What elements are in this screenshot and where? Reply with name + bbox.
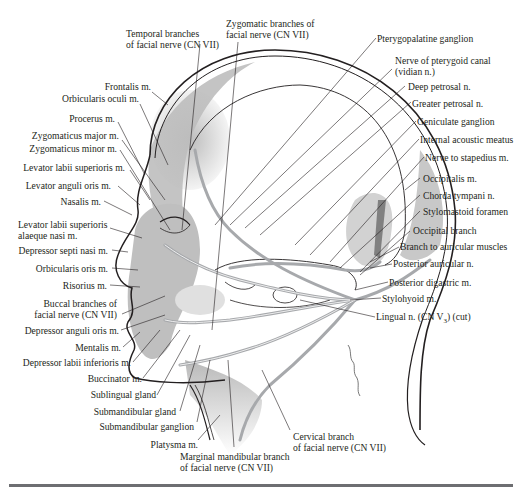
label-line: of facial nerve (CN VII) bbox=[180, 462, 290, 473]
label-line: of facial nerve (CN VII) bbox=[293, 442, 386, 453]
label-greater-petrosal: Greater petrosal n. bbox=[412, 98, 483, 109]
label-deep-petrosal: Deep petrosal n. bbox=[408, 81, 471, 92]
label-chorda-tympani: Chorda tympani n. bbox=[423, 190, 495, 201]
label-submandibular-gland: Submandibular gland bbox=[94, 406, 176, 417]
label-stylohyoid: Stylohyoid m. bbox=[382, 293, 436, 304]
label-internal-acoustic-meatus: Internal acoustic meatus bbox=[420, 134, 513, 145]
label-levator-anguli-oris: Levator anguli oris m. bbox=[26, 180, 111, 191]
label-geniculate-ganglion: Geniculate ganglion bbox=[417, 116, 495, 127]
label-line: Levator labii superioris bbox=[18, 219, 108, 230]
label-line: facial nerve (CN VII) bbox=[226, 29, 314, 40]
bottom-rule bbox=[9, 484, 513, 487]
label-text: ) (cut) bbox=[447, 311, 471, 322]
label-line: Cervical branch bbox=[293, 431, 386, 442]
label-sublingual-gland: Sublingual gland bbox=[91, 389, 156, 400]
label-orbicularis-oris: Orbicularis oris m. bbox=[36, 263, 108, 274]
label-line: of facial nerve (CN VII) bbox=[126, 39, 219, 50]
label-depressor-anguli-oris: Depressor anguli oris m. bbox=[25, 325, 119, 336]
label-buccal-branches: Buccal branches of facial nerve (CN VII) bbox=[34, 298, 117, 320]
label-frontalis: Frontalis m. bbox=[105, 81, 151, 92]
label-stylomastoid-foramen: Stylomastoid foramen bbox=[423, 206, 508, 217]
label-branch-auricular-muscles: Branch to auricular muscles bbox=[400, 241, 507, 252]
label-orbicularis-oculi: Orbicularis oculi m. bbox=[62, 93, 139, 104]
label-zygomaticus-major: Zygomaticus major m. bbox=[32, 130, 119, 141]
label-occipital-branch: Occipital branch bbox=[413, 225, 477, 236]
label-pterygopalatine-ganglion: Pterygopalatine ganglion bbox=[377, 33, 473, 44]
label-line: Zygomatic branches of bbox=[226, 18, 314, 29]
label-line: (vidian n.) bbox=[395, 66, 491, 77]
label-depressor-septi-nasi: Depressor septi nasi m. bbox=[18, 245, 108, 256]
label-line: Nerve of pterygoid canal bbox=[395, 55, 491, 66]
label-lingual-nerve: Lingual n. (CN V3) (cut) bbox=[376, 311, 471, 327]
label-depressor-labii-inferioris: Depressor labii inferioris m. bbox=[23, 357, 131, 368]
label-submandibular-ganglion: Submandibular ganglion bbox=[99, 421, 194, 432]
label-zygomatic-branches: Zygomatic branches of facial nerve (CN V… bbox=[226, 18, 314, 40]
label-posterior-digastric: Posterior digastric m. bbox=[389, 277, 471, 288]
label-line: alaeque nasi m. bbox=[18, 230, 108, 241]
label-line: Buccal branches of bbox=[34, 298, 117, 309]
label-nasalis: Nasalis m. bbox=[60, 196, 101, 207]
label-platysma: Platysma m. bbox=[151, 439, 198, 450]
label-levator-labii-superioris: Levator labii superioris m. bbox=[23, 162, 125, 173]
label-marginal-mandibular: Marginal mandibular branch of facial ner… bbox=[180, 451, 290, 473]
label-text: Lingual n. (CN V bbox=[376, 311, 444, 322]
label-nerve-pterygoid-canal: Nerve of pterygoid canal (vidian n.) bbox=[395, 55, 491, 77]
label-buccinator: Buccinator m. bbox=[88, 373, 142, 384]
label-cervical-branch: Cervical branch of facial nerve (CN VII) bbox=[293, 431, 386, 453]
label-procerus: Procerus m. bbox=[69, 113, 115, 124]
label-nerve-to-stapedius: Nerve to stapedius m. bbox=[425, 152, 509, 163]
label-mentalis: Mentalis m. bbox=[75, 342, 121, 353]
label-temporal-branches: Temporal branches of facial nerve (CN VI… bbox=[126, 28, 219, 50]
label-posterior-auricular: Posterior auricular n. bbox=[393, 258, 474, 269]
facial-nerve-diagram: Temporal branches of facial nerve (CN VI… bbox=[0, 0, 531, 495]
label-line: Temporal branches bbox=[126, 28, 219, 39]
label-risorius: Risorius m. bbox=[63, 280, 107, 291]
label-zygomaticus-minor: Zygomaticus minor m. bbox=[29, 143, 117, 154]
label-line: facial nerve (CN VII) bbox=[34, 309, 117, 320]
label-line: Marginal mandibular branch bbox=[180, 451, 290, 462]
label-occipitalis: Occipitalis m. bbox=[423, 173, 477, 184]
label-levator-labii-sup-alaeque: Levator labii superioris alaeque nasi m. bbox=[18, 219, 108, 241]
